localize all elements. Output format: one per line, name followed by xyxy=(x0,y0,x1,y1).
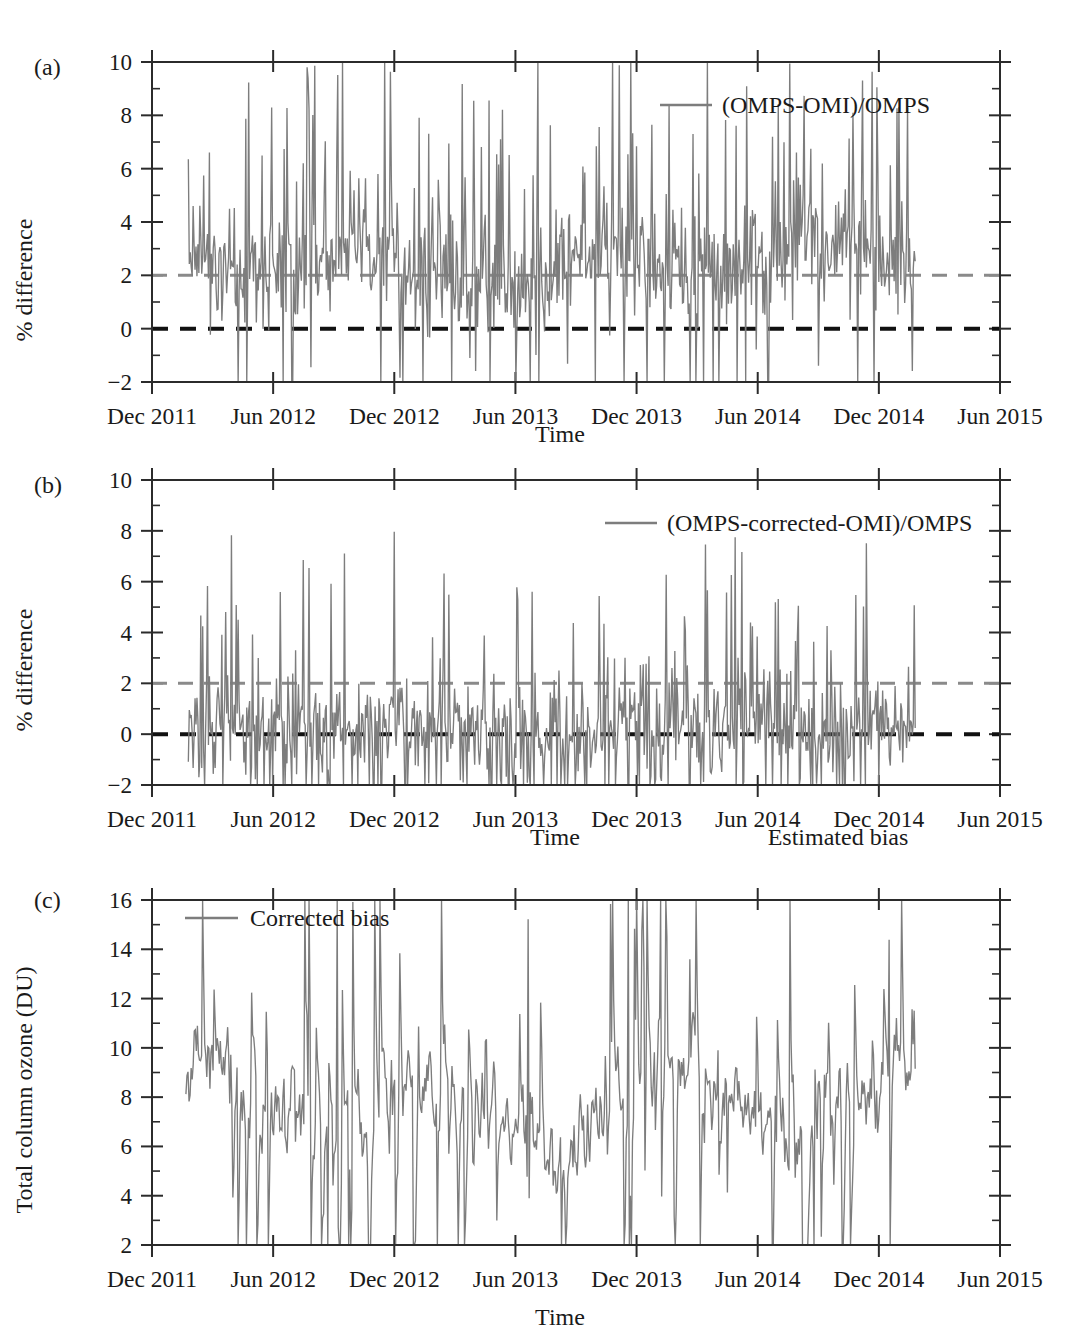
x-tick-label: Dec 2014 xyxy=(833,1266,924,1292)
y-tick-label: 6 xyxy=(121,570,133,595)
y-tick-label: 8 xyxy=(121,519,133,544)
y-tick-label: 4 xyxy=(121,210,133,235)
y-tick-label: 2 xyxy=(121,1233,133,1258)
y-tick-label: 8 xyxy=(121,1085,133,1110)
y-tick-label: 0 xyxy=(121,317,133,342)
x-tick-label: Dec 2012 xyxy=(349,806,440,832)
x-tick-label: Jun 2012 xyxy=(230,806,316,832)
panel-b-ylabel: % difference xyxy=(11,609,37,732)
y-tick-label: 16 xyxy=(109,888,132,913)
y-tick-label: 10 xyxy=(109,1036,132,1061)
panel-b-legend-label: (OMPS-corrected-OMI)/OMPS xyxy=(667,510,972,536)
y-tick-label: 2 xyxy=(121,263,133,288)
x-tick-label: Dec 2013 xyxy=(591,1266,682,1292)
x-tick-label: Jun 2015 xyxy=(957,806,1043,832)
y-tick-label: 6 xyxy=(121,157,133,182)
y-tick-label: 0 xyxy=(121,722,133,747)
x-tick-label: Dec 2012 xyxy=(349,1266,440,1292)
panel-c-tag: (c) xyxy=(34,887,61,913)
y-tick-label: 8 xyxy=(121,103,133,128)
y-tick-label: 12 xyxy=(109,987,132,1012)
panel-b-tag: (b) xyxy=(34,472,62,498)
panel-c-plot: 246810121416Dec 2011Jun 2012Dec 2012Jun … xyxy=(107,888,1043,1292)
x-tick-label: Jun 2014 xyxy=(715,403,801,429)
x-tick-label: Dec 2011 xyxy=(107,806,197,832)
panel-c-xlabel: Time xyxy=(535,1304,585,1330)
x-tick-label: Dec 2013 xyxy=(591,806,682,832)
y-tick-label: 4 xyxy=(121,621,133,646)
x-tick-label: Dec 2013 xyxy=(591,403,682,429)
series-line-Corrected bias xyxy=(186,900,915,1245)
chart-panel-c: 246810121416Dec 2011Jun 2012Dec 2012Jun … xyxy=(0,870,1090,1335)
panel-c-svg: 246810121416Dec 2011Jun 2012Dec 2012Jun … xyxy=(0,870,1090,1335)
series-line-(OMPS-corrected-OMI)/OMPS xyxy=(188,532,915,785)
x-tick-label: Jun 2015 xyxy=(957,1266,1043,1292)
panel-b-xlabel: Time xyxy=(530,824,580,850)
y-tick-label: 10 xyxy=(109,50,132,75)
y-tick-label: −2 xyxy=(108,773,132,798)
x-tick-label: Jun 2014 xyxy=(715,1266,801,1292)
y-tick-label: 4 xyxy=(121,1184,133,1209)
y-tick-label: −2 xyxy=(108,370,132,395)
panel-b-svg: −20246810Dec 2011Jun 2012Dec 2012Jun 201… xyxy=(0,455,1090,855)
panel-c-ylabel: Total column ozone (DU) xyxy=(11,967,37,1214)
panel-a-xlabel: Time xyxy=(535,421,585,447)
chart-panel-b: −20246810Dec 2011Jun 2012Dec 2012Jun 201… xyxy=(0,455,1090,855)
chart-panel-a: −20246810Dec 2011Jun 2012Dec 2012Jun 201… xyxy=(0,30,1090,450)
y-tick-label: 10 xyxy=(109,468,132,493)
panel-a-tag: (a) xyxy=(34,54,61,80)
panel-a-svg: −20246810Dec 2011Jun 2012Dec 2012Jun 201… xyxy=(0,30,1090,450)
y-tick-label: 14 xyxy=(109,937,133,962)
panel-a-legend-label: (OMPS-OMI)/OMPS xyxy=(722,92,930,118)
y-tick-label: 6 xyxy=(121,1134,133,1159)
figure-container: −20246810Dec 2011Jun 2012Dec 2012Jun 201… xyxy=(0,0,1090,1335)
x-tick-label: Dec 2011 xyxy=(107,403,197,429)
x-tick-label: Dec 2012 xyxy=(349,403,440,429)
y-tick-label: 2 xyxy=(121,671,133,696)
x-tick-label: Jun 2013 xyxy=(473,1266,559,1292)
panel-a-ylabel: % difference xyxy=(11,219,37,342)
x-tick-label: Jun 2015 xyxy=(957,403,1043,429)
x-tick-label: Dec 2014 xyxy=(833,403,924,429)
panel-b-estimated-bias-label: Estimated bias xyxy=(768,824,909,850)
x-tick-label: Jun 2012 xyxy=(230,1266,316,1292)
x-tick-label: Dec 2011 xyxy=(107,1266,197,1292)
panel-c-legend-label: Corrected bias xyxy=(250,905,389,931)
x-tick-label: Jun 2012 xyxy=(230,403,316,429)
